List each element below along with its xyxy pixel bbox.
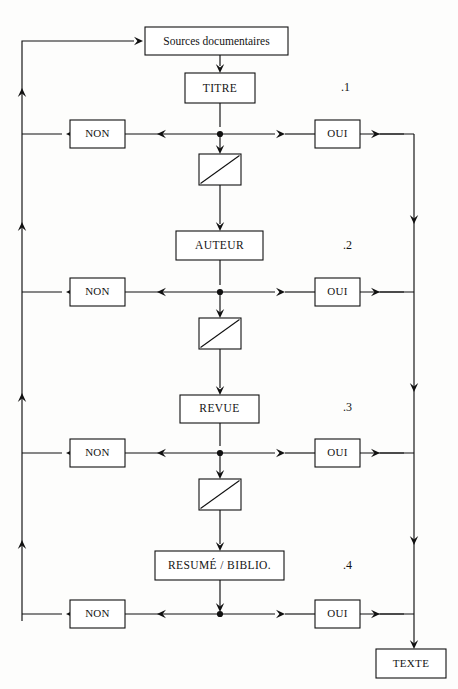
step-number-4: .4 xyxy=(343,558,352,572)
step-number-1: .1 xyxy=(341,80,350,94)
branch-no-3[interactable]: NON xyxy=(70,439,125,467)
node-sources-documentaires-label: Sources documentaires xyxy=(163,35,270,47)
branch-no-4[interactable]: NON xyxy=(70,600,125,628)
branch-yes-4[interactable]: OUI xyxy=(315,600,360,628)
branch-no-2[interactable]: NON xyxy=(70,278,125,306)
branch-yes-1-label: OUI xyxy=(327,127,347,139)
branch-no-3-label: NON xyxy=(85,446,110,458)
filter-box-2 xyxy=(199,318,241,349)
node-resume-biblio-label: RESUMÉ / BIBLIO. xyxy=(168,558,271,571)
step-number-2: .2 xyxy=(343,238,352,252)
branch-yes-2[interactable]: OUI xyxy=(315,278,360,306)
node-resume-biblio[interactable]: RESUMÉ / BIBLIO. xyxy=(155,551,284,580)
filter-box-3 xyxy=(199,479,241,510)
branch-no-1[interactable]: NON xyxy=(70,120,125,148)
node-texte-label: TEXTE xyxy=(393,657,429,669)
branch-yes-1[interactable]: OUI xyxy=(315,120,360,148)
yes-output-spine xyxy=(410,134,418,649)
node-auteur-label: AUTEUR xyxy=(195,239,244,251)
node-titre-label: TITRE xyxy=(203,82,238,94)
branch-yes-3-label: OUI xyxy=(327,446,347,458)
flowchart-canvas: Sources documentaires TITRE .1 NON OUI A… xyxy=(0,0,458,689)
branch-no-4-label: NON xyxy=(85,607,110,619)
filter-box-1 xyxy=(199,154,241,185)
node-auteur[interactable]: AUTEUR xyxy=(176,231,263,260)
node-texte[interactable]: TEXTE xyxy=(376,649,446,678)
branch-yes-3[interactable]: OUI xyxy=(315,439,360,467)
branch-yes-4-label: OUI xyxy=(327,607,347,619)
node-revue-label: REVUE xyxy=(199,402,239,414)
flowchart-diagram: Sources documentaires TITRE .1 NON OUI A… xyxy=(0,0,458,689)
branch-yes-2-label: OUI xyxy=(327,285,347,297)
branch-no-2-label: NON xyxy=(85,285,110,297)
branch-no-1-label: NON xyxy=(85,127,110,139)
node-sources-documentaires[interactable]: Sources documentaires xyxy=(145,27,288,55)
node-titre[interactable]: TITRE xyxy=(185,73,255,103)
node-revue[interactable]: REVUE xyxy=(180,395,259,423)
step-number-3: .3 xyxy=(343,400,352,414)
